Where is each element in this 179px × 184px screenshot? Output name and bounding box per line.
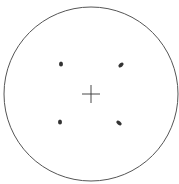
diffraction-pattern-diagram [0, 0, 179, 184]
diffraction-spot [58, 120, 62, 125]
diffraction-spot [59, 62, 63, 67]
diffraction-spot [118, 62, 125, 69]
center-cross-icon [82, 85, 100, 103]
diffraction-spot [116, 120, 123, 126]
